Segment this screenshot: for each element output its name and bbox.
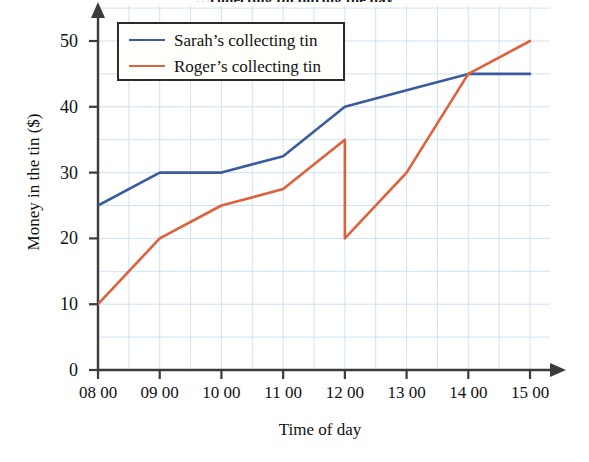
legend: Sarah’s collecting tin Roger’s collectin… [117, 22, 345, 81]
legend-label-roger: Roger’s collecting tin [174, 58, 321, 75]
x-axis-title: Time of day [90, 420, 550, 440]
y-axis-tick-label: 0 [32, 361, 78, 379]
x-axis-tick-label: 11 00 [251, 384, 315, 401]
chart-container: …collecting tin during the day 010203040… [0, 0, 589, 462]
legend-item-sarah: Sarah’s collecting tin [129, 27, 343, 53]
legend-swatch-roger [129, 65, 165, 67]
x-axis-tick-label: 10 00 [189, 384, 253, 401]
x-axis-arrow [550, 363, 566, 377]
legend-swatch-sarah [129, 39, 165, 41]
x-axis-tick-label: 08 00 [66, 384, 130, 401]
x-axis-tick-label: 15 00 [498, 384, 562, 401]
legend-item-roger: Roger’s collecting tin [129, 53, 343, 79]
x-axis-tick-label: 13 00 [375, 384, 439, 401]
legend-label-sarah: Sarah’s collecting tin [174, 32, 318, 49]
x-axis-tick-label: 14 00 [436, 384, 500, 401]
x-axis-tick-label: 09 00 [128, 384, 192, 401]
x-axis-tick-label: 12 00 [313, 384, 377, 401]
y-axis-arrow [91, 2, 105, 18]
axis-ticks [89, 41, 530, 379]
y-axis-title: Money in the tin ($) [24, 42, 44, 322]
